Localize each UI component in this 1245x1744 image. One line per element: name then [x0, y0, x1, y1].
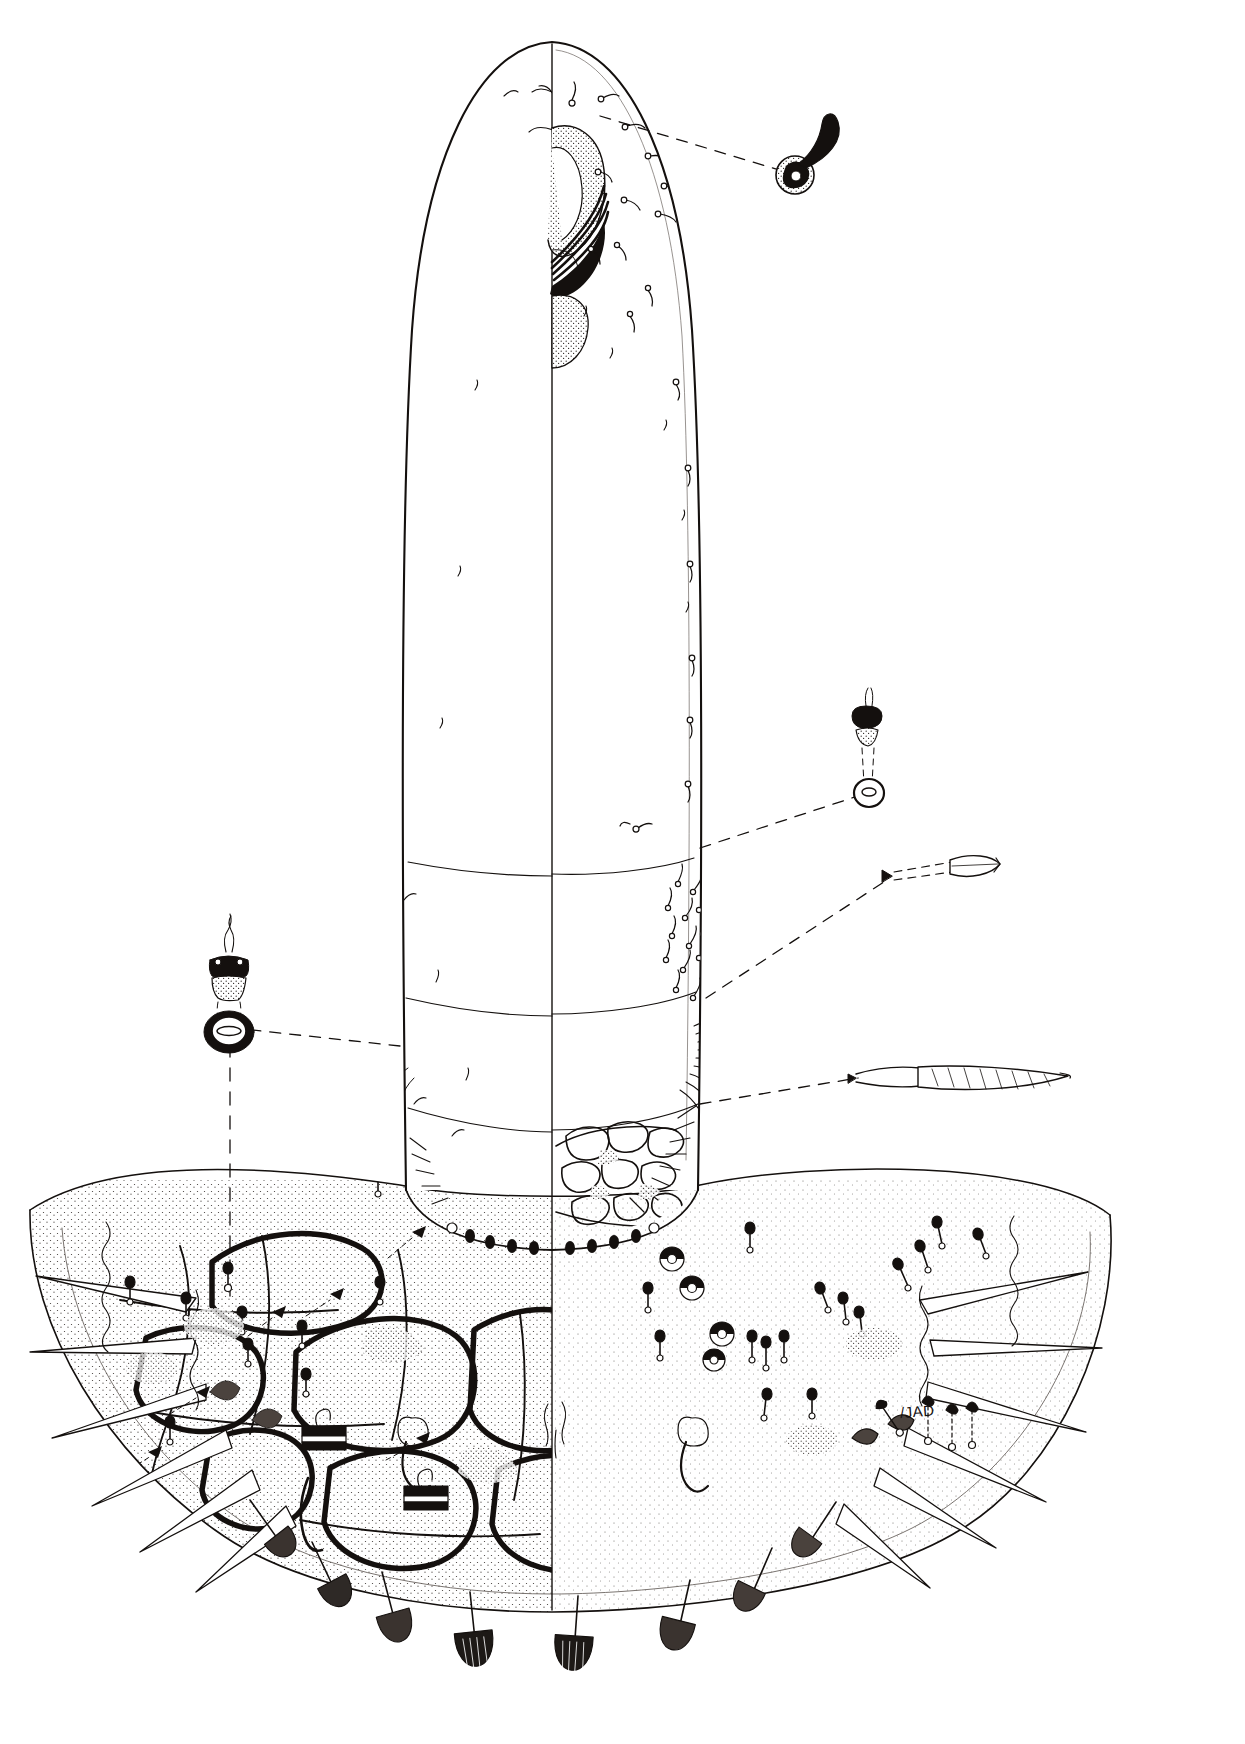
scientific-plate — [0, 0, 1245, 1744]
leader-left-trichobothrium — [252, 1030, 400, 1046]
callout-apical-seta — [776, 114, 839, 194]
illustration-page: /JAD — [0, 0, 1245, 1744]
callout-long-seta — [848, 1066, 1071, 1089]
leader-barbed-seta — [706, 878, 890, 998]
callout-barbed-seta — [882, 856, 1000, 882]
callout-right-trichobothrium — [852, 688, 884, 807]
artist-signature: /JAD — [899, 1402, 935, 1421]
leader-long-seta — [700, 1078, 858, 1104]
leader-right-trichobothrium — [700, 796, 858, 848]
